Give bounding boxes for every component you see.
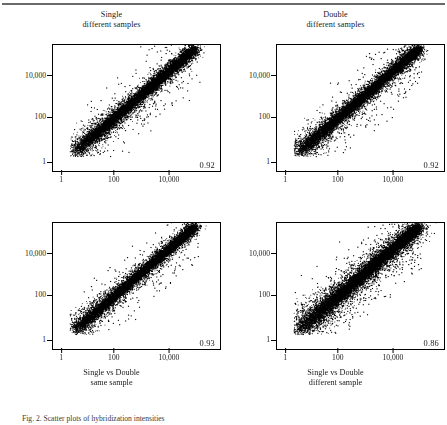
panel-title-line1: Double: [224, 10, 447, 20]
x-axis-ticks: 110010,000: [52, 349, 219, 367]
scatter-plot-grid: Single different samples 10,0001001 0.92…: [0, 8, 447, 408]
x-axis-tick-label: 1: [283, 175, 287, 184]
y-axis-tick-label: 10,000: [249, 249, 276, 259]
x-axis-tick-label: 1: [283, 353, 287, 362]
y-axis-tick-label: 1: [42, 157, 52, 167]
panel-title: Double different samples: [224, 10, 447, 29]
x-axis-tick-label: 100: [332, 175, 343, 184]
plot-frame[interactable]: 0.92: [52, 44, 221, 172]
y-axis-tick-label: 10,000: [249, 71, 276, 81]
x-axis-tick-label: 10,000: [158, 175, 179, 184]
scatter-canvas: [53, 223, 220, 349]
plot-frame[interactable]: 0.92: [276, 44, 445, 172]
panel-title: Single different samples: [0, 10, 223, 29]
y-axis-tick-label: 10,000: [25, 71, 52, 81]
x-axis-tick-label: 100: [108, 175, 119, 184]
panel-title-line2: different samples: [0, 20, 223, 30]
y-axis-tick-label: 100: [35, 290, 52, 300]
x-axis-tick-label: 10,000: [382, 353, 403, 362]
panel-title-line2: different samples: [224, 20, 447, 30]
y-axis-tick-label: 100: [35, 112, 52, 122]
x-axis-tick-label: 10,000: [158, 353, 179, 362]
panel-single-different-samples: Single different samples 10,0001001 0.92…: [0, 8, 223, 204]
panel-single-vs-double-different-sample: 10,0001001 0.86 110010,000 Single vs Dou…: [224, 200, 447, 396]
x-axis-tick-label: 100: [108, 353, 119, 362]
panel-caption: Single vs Double different sample: [224, 368, 447, 388]
figure-page: Single different samples 10,0001001 0.92…: [0, 0, 447, 425]
scatter-canvas: [53, 45, 220, 171]
panel-caption: Single vs Double same sample: [0, 368, 223, 388]
y-axis-ticks: 10,0001001: [0, 222, 52, 348]
panel-single-vs-double-same-sample: 10,0001001 0.93 110010,000 Single vs Dou…: [0, 200, 223, 396]
top-divider-rule: [2, 3, 445, 5]
x-axis-tick-label: 10,000: [382, 175, 403, 184]
y-axis-tick-label: 1: [266, 335, 276, 345]
y-axis-tick-label: 100: [259, 290, 276, 300]
panel-caption-line1: Single vs Double: [224, 368, 447, 378]
panel-caption-line1: Single vs Double: [0, 368, 223, 378]
y-axis-ticks: 10,0001001: [224, 222, 276, 348]
y-axis-tick-label: 100: [259, 112, 276, 122]
correlation-label: 0.93: [200, 339, 215, 348]
x-axis-ticks: 110010,000: [276, 349, 443, 367]
y-axis-tick-label: 1: [266, 157, 276, 167]
x-axis-tick-label: 100: [332, 353, 343, 362]
plot-frame[interactable]: 0.93: [52, 222, 221, 350]
y-axis-ticks: 10,0001001: [0, 44, 52, 170]
y-axis-tick-label: 1: [42, 335, 52, 345]
panel-caption-line2: different sample: [224, 378, 447, 388]
y-axis-tick-label: 10,000: [25, 249, 52, 259]
x-axis-tick-label: 1: [59, 175, 63, 184]
x-axis-tick-label: 1: [59, 353, 63, 362]
panel-caption-line2: same sample: [0, 378, 223, 388]
correlation-label: 0.92: [200, 161, 215, 170]
correlation-label: 0.86: [424, 339, 439, 348]
figure-caption: Fig. 2. Scatter plots of hybridization i…: [22, 414, 442, 425]
panel-title-line1: Single: [0, 10, 223, 20]
x-axis-ticks: 110010,000: [276, 171, 443, 189]
x-axis-ticks: 110010,000: [52, 171, 219, 189]
scatter-canvas: [277, 223, 444, 349]
panel-double-different-samples: Double different samples 10,0001001 0.92…: [224, 8, 447, 204]
scatter-canvas: [277, 45, 444, 171]
plot-frame[interactable]: 0.86: [276, 222, 445, 350]
y-axis-ticks: 10,0001001: [224, 44, 276, 170]
correlation-label: 0.92: [424, 161, 439, 170]
